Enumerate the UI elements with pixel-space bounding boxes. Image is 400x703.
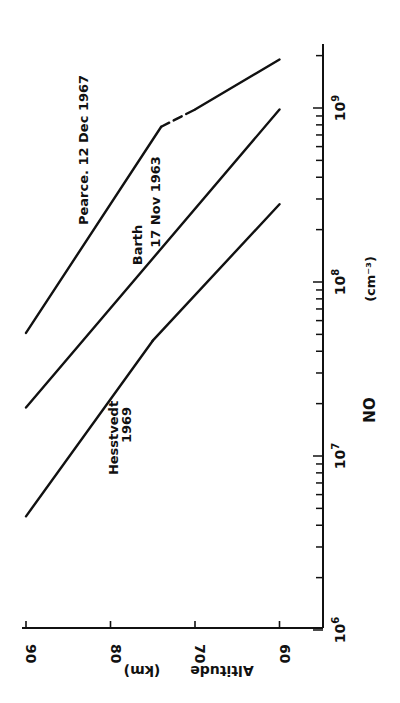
- series-label-pearce: Pearce. 12 Dec 1967: [76, 75, 91, 225]
- altitude-tick-label: 90: [23, 644, 39, 664]
- curve-barth-segment: [26, 110, 280, 408]
- no-tick-label: 108: [330, 269, 348, 295]
- altitude-axis-units: (km): [124, 663, 161, 679]
- series-label-hesstvedt-year: 1969: [119, 407, 134, 443]
- curves: [26, 59, 280, 516]
- curve-hesstvedt-segment: [153, 204, 280, 340]
- no-tick-label: 109: [330, 95, 348, 121]
- curve-pearce-segment: [161, 110, 195, 127]
- series-label-barth: Barth: [130, 225, 145, 266]
- labels: 90807060106107108109NO(cm⁻³)Altitude(km)…: [23, 75, 379, 679]
- series-label-barth-date: 17 Nov 1963: [148, 156, 163, 248]
- no-tick-label: 106: [330, 617, 348, 643]
- altitude-tick-label: 70: [192, 644, 208, 664]
- curve-pearce-segment: [195, 59, 280, 109]
- no-tick-label: 107: [330, 443, 348, 469]
- no-axis-units: (cm⁻³): [363, 256, 378, 302]
- altitude-axis-title: Altitude: [190, 663, 253, 679]
- altitude-tick-label: 80: [108, 644, 124, 664]
- altitude-tick-label: 60: [277, 644, 293, 664]
- chart-canvas: 90807060106107108109NO(cm⁻³)Altitude(km)…: [0, 0, 400, 703]
- axes: [22, 44, 323, 630]
- no-axis-title: NO: [361, 397, 379, 422]
